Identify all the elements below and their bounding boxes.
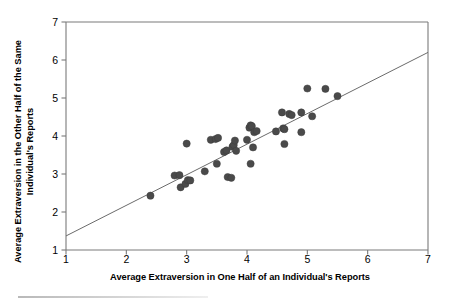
data-point (176, 172, 183, 179)
regression-line (66, 52, 428, 236)
data-point (243, 136, 250, 143)
y-tick-label: 3 (46, 168, 58, 180)
data-point (183, 140, 190, 147)
data-point (298, 109, 305, 116)
y-tick-label: 5 (46, 92, 58, 104)
data-point (231, 137, 238, 144)
data-point (304, 85, 311, 92)
y-tick-label: 2 (46, 206, 58, 218)
data-point (272, 128, 279, 135)
data-point (278, 109, 285, 116)
y-tick-label: 6 (46, 54, 58, 66)
x-tick-label: 3 (184, 253, 190, 265)
x-tick-label: 2 (123, 253, 129, 265)
data-point (288, 112, 295, 119)
x-axis-label: Average Extraversion in One Half of an I… (40, 272, 440, 282)
data-point (309, 113, 316, 120)
data-point (281, 126, 288, 133)
data-point (322, 85, 329, 92)
footer-divider (18, 296, 208, 298)
data-point (249, 144, 256, 151)
data-point (214, 134, 221, 141)
x-tick-label: 7 (425, 253, 431, 265)
data-point (298, 129, 305, 136)
y-tick-label: 4 (46, 130, 58, 142)
x-tick-label: 4 (244, 253, 250, 265)
x-tick-label: 6 (365, 253, 371, 265)
data-point (213, 160, 220, 167)
data-point (247, 160, 254, 167)
data-point (228, 174, 235, 181)
scatter-plot-figure: Average Extraversion in the Other Half o… (0, 0, 451, 303)
data-point (147, 192, 154, 199)
data-point (201, 168, 208, 175)
x-tick-label: 1 (63, 253, 69, 265)
y-tick-label: 1 (46, 244, 58, 256)
x-tick-label: 5 (304, 253, 310, 265)
data-point (253, 127, 260, 134)
y-tick-label: 7 (46, 16, 58, 28)
data-point (334, 93, 341, 100)
data-point (187, 177, 194, 184)
data-point (233, 147, 240, 154)
data-point (281, 140, 288, 147)
